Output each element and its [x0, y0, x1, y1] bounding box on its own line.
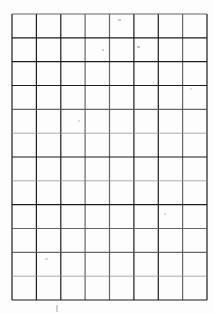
- grid-sheet: [0, 0, 214, 313]
- scan-speckle: [45, 258, 48, 260]
- scan-speckle: [78, 120, 80, 122]
- scan-speckle: [190, 88, 192, 90]
- scan-speckle: [56, 305, 58, 312]
- grid-drawing: [0, 0, 214, 313]
- scan-speckle: [137, 46, 140, 48]
- scan-speckle: [164, 213, 166, 215]
- scan-speckle: [118, 19, 121, 21]
- scan-speckle: [102, 49, 104, 51]
